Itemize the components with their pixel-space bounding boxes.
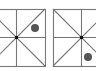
diagram — [0, 0, 96, 71]
right-panel — [53, 9, 96, 67]
marker-dot — [31, 24, 39, 32]
center-dot — [15, 36, 18, 39]
left-panel — [0, 9, 46, 67]
marker-dot — [84, 53, 92, 61]
center-dot — [80, 36, 83, 39]
